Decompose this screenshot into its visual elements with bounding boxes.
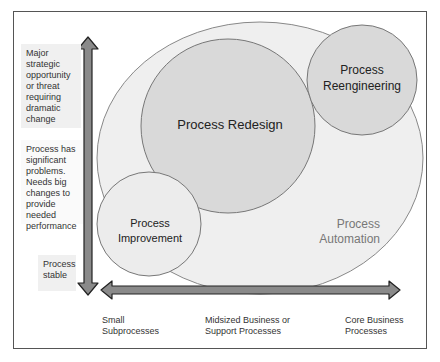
process-reengineering-label: Process Reengineering [312, 62, 412, 94]
x-axis-label-middle: Midsized Business or Support Processes [205, 315, 295, 337]
x-axis-label-left: Small Subprocesses [102, 315, 162, 337]
reengineering-line1: Process [312, 62, 412, 78]
reengineering-line2: Reengineering [312, 78, 412, 94]
y-axis-label-bottom: Process stable [38, 255, 76, 291]
automation-line1: Process [300, 217, 380, 232]
x-axis-label-right: Core Business Processes [345, 315, 415, 337]
y-axis-label-top: Major strategic opportunity or threat re… [21, 44, 81, 128]
improvement-line2: Improvement [110, 231, 190, 246]
y-axis-label-middle: Process has significant problems. Needs … [21, 140, 83, 224]
process-improvement-label: Process Improvement [110, 216, 190, 246]
improvement-line1: Process [110, 216, 190, 231]
process-redesign-text: Process Redesign [177, 117, 283, 132]
process-automation-label: Process Automation [300, 217, 380, 247]
automation-line2: Automation [300, 232, 380, 247]
process-redesign-label: Process Redesign [160, 117, 300, 132]
